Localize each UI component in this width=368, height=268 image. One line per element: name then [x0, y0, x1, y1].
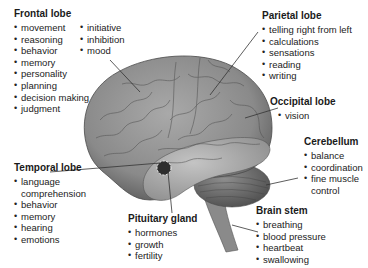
brain-stem-title: Brain stem [256, 205, 326, 217]
frontal-lobe-list: movement reasoning behavior memory perso… [14, 22, 89, 115]
list-item: movement [14, 22, 89, 34]
list-item: hearing [14, 222, 96, 234]
pituitary-gland-title: Pituitary gland [128, 213, 197, 225]
parietal-lobe-list: telling right from left calculations sen… [262, 24, 352, 82]
list-item: growth [128, 239, 197, 251]
frontal-lobe-title: Frontal lobe [14, 8, 89, 20]
list-item: reading [262, 59, 352, 71]
list-item: personality [14, 68, 89, 80]
list-item: calculations [262, 36, 352, 48]
brain-stem-label: Brain stem breathing blood pressure hear… [256, 205, 326, 265]
list-item: telling right from left [262, 24, 352, 36]
parietal-lobe-title: Parietal lobe [262, 10, 352, 22]
list-item: language comprehension [14, 176, 96, 199]
brain-stem-list: breathing blood pressure heartbeat swall… [256, 219, 326, 265]
frontal-lobe-label-col2: initiative inhibition mood [80, 22, 125, 57]
list-item: memory [14, 57, 89, 69]
cerebellum-label: Cerebellum balance coordination fine mus… [304, 136, 368, 196]
cerebellum-leader-line [266, 178, 298, 185]
list-item: fine muscle control [304, 173, 368, 196]
list-item: blood pressure [256, 231, 326, 243]
cerebellum-list: balance coordination fine muscle control [304, 150, 368, 196]
list-item: breathing [256, 219, 326, 231]
list-item: swallowing [256, 254, 326, 266]
cerebellum-title: Cerebellum [304, 136, 368, 148]
list-item: initiative [80, 22, 125, 34]
temporal-lobe-title: Temporal lobe [14, 162, 96, 174]
list-item: mood [80, 45, 125, 57]
brainstem-leader-line [232, 225, 258, 232]
frontal-lobe-list-col2: initiative inhibition mood [80, 22, 125, 57]
list-item: sensations [262, 47, 352, 59]
list-item: memory [14, 211, 96, 223]
parietal-lobe-label: Parietal lobe telling right from left ca… [262, 10, 352, 82]
temporal-lobe-list: language comprehension behavior memory h… [14, 176, 96, 246]
list-item: fertility [128, 250, 197, 262]
occipital-lobe-list: vision [278, 110, 336, 122]
temporal-lobe-label: Temporal lobe language comprehension beh… [14, 162, 96, 246]
list-item: behavior [14, 199, 96, 211]
list-item: judgment [14, 103, 89, 115]
pituitary-gland-label: Pituitary gland hormones growth fertilit… [128, 213, 197, 262]
list-item: decision making [14, 92, 89, 104]
list-item: writing [262, 70, 352, 82]
list-item: vision [278, 110, 336, 122]
list-item: behavior [14, 45, 89, 57]
frontal-lobe-label: Frontal lobe movement reasoning behavior… [14, 8, 89, 115]
list-item: coordination [304, 162, 368, 174]
list-item: inhibition [80, 34, 125, 46]
occipital-lobe-label: Occipital lobe vision [270, 96, 336, 122]
list-item: heartbeat [256, 242, 326, 254]
list-item: hormones [128, 227, 197, 239]
pituitary-gland-list: hormones growth fertility [128, 227, 197, 262]
list-item: balance [304, 150, 368, 162]
list-item: reasoning [14, 34, 89, 46]
occipital-lobe-title: Occipital lobe [270, 96, 336, 108]
list-item: planning [14, 80, 89, 92]
list-item: emotions [14, 234, 96, 246]
